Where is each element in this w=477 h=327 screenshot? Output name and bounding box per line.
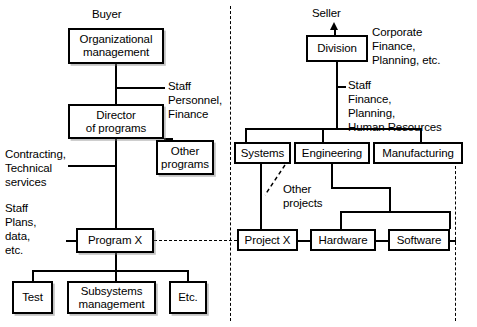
line-program-x-bus <box>32 270 188 272</box>
box-director-of-programs: Director of programs <box>68 104 164 139</box>
box-systems: Systems <box>234 142 291 164</box>
line-contracting-stub <box>68 165 116 167</box>
box-manufacturing: Manufacturing <box>373 142 463 164</box>
line-hw-sw-bus <box>340 211 450 213</box>
seller-right-divider <box>455 166 456 321</box>
buyer-side-label: Buyer <box>92 7 122 21</box>
line-bus-to-systems <box>245 128 247 142</box>
line-division-down <box>336 62 338 128</box>
org-chart-diagram: Buyer Organizational management Staff Pe… <box>0 0 477 327</box>
line-staff-personnel-stub <box>115 87 165 89</box>
box-program-x: Program X <box>76 228 154 253</box>
stub-software-to-divider <box>450 240 456 242</box>
label-staff-plans-data-etc: Staff Plans, data, etc. <box>5 201 36 257</box>
box-engineering: Engineering <box>294 142 370 164</box>
buyer-seller-divider <box>230 6 231 321</box>
line-engineering-jog-down <box>389 187 391 212</box>
line-director-to-program-x <box>115 139 117 229</box>
line-bus-to-software <box>449 211 451 229</box>
box-subsystems-management: Subsystems management <box>67 281 156 314</box>
box-software: Software <box>388 229 450 251</box>
line-program-x-down <box>115 253 117 271</box>
box-test: Test <box>12 281 53 314</box>
label-other-projects: Other projects <box>283 182 322 210</box>
box-division: Division <box>306 35 368 62</box>
line-engineering-down <box>331 164 333 188</box>
box-other-programs: Other programs <box>156 140 214 175</box>
line-bus-to-hardware <box>340 211 342 229</box>
seller-side-label: Seller <box>312 6 341 20</box>
line-staff-seller-stub <box>336 86 346 88</box>
line-om-to-director <box>115 64 117 104</box>
label-corporate-finance-planning: Corporate Finance, Planning, etc. <box>372 25 440 67</box>
box-hardware: Hardware <box>310 229 376 251</box>
label-staff-personnel-finance: Staff Personnel, Finance <box>168 79 222 121</box>
line-bus-to-engineering <box>322 128 324 142</box>
box-project-x: Project X <box>237 229 298 251</box>
link-program-x-to-project-x <box>154 240 242 241</box>
label-staff-finance-planning-hr: Staff Finance, Planning, Human Resources <box>348 78 442 134</box>
arrow-division-to-seller <box>330 22 338 30</box>
box-etc: Etc. <box>169 281 207 314</box>
line-systems-to-project-x <box>260 164 262 229</box>
box-organizational-management: Organizational management <box>68 28 164 64</box>
line-engineering-jog <box>331 187 390 189</box>
label-contracting-technical-services: Contracting, Technical services <box>5 147 66 189</box>
